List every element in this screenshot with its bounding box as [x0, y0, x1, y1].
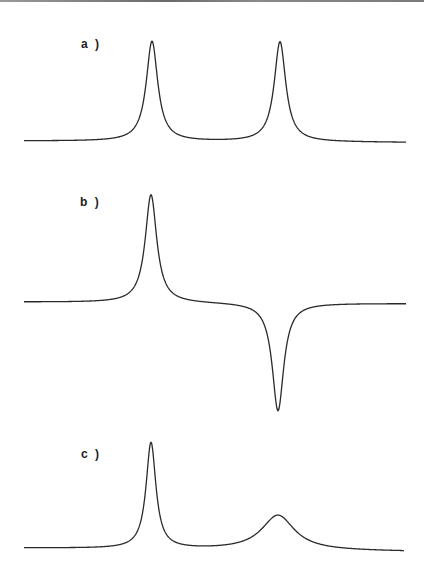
panel-label-a: a ) — [81, 37, 101, 51]
spectrum-curve-a — [24, 41, 406, 142]
panel-label-c: c ) — [81, 447, 101, 461]
panel-label-b: b ) — [80, 195, 101, 209]
spectra-figure — [0, 0, 424, 574]
spectrum-curve-b — [24, 195, 406, 411]
